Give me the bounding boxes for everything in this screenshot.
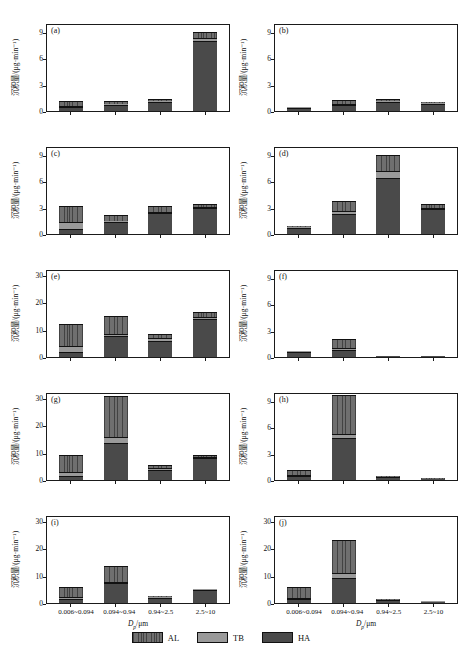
x-tick-mark [115, 235, 116, 238]
plot-frame [46, 24, 230, 112]
y-axis: 0369 [20, 24, 46, 112]
bar-segment-al [287, 587, 311, 599]
x-tick-mark [388, 481, 389, 484]
bar-stack [421, 271, 445, 357]
chart-panel-h: (h)0369 [274, 393, 458, 481]
bar-segment-ha [287, 476, 311, 480]
x-tick-slot [286, 604, 310, 607]
bar-stack [148, 271, 172, 357]
legend-item-ha: HA [262, 632, 322, 643]
x-tick-slot [103, 604, 127, 607]
x-tick-slot [331, 604, 355, 607]
x-tick-mark [298, 481, 299, 484]
x-tick-mark [343, 112, 344, 115]
bar-segment-ha [376, 178, 400, 234]
x-tick-mark [205, 112, 206, 115]
bar-segment-ha [421, 209, 445, 234]
bar-stack [332, 517, 356, 603]
bar-segment-ha [376, 356, 400, 357]
x-tick-mark [298, 358, 299, 361]
y-axis-label: 沉积量/(μg·min⁻¹) [9, 389, 20, 485]
bar-segment-ha [287, 599, 311, 603]
bar-segment-ha [59, 352, 83, 357]
y-axis: 0369 [248, 393, 274, 481]
x-tick-slot [103, 481, 127, 484]
x-tick-mark [70, 481, 71, 484]
bar-segment-ha [59, 476, 83, 480]
y-tick-mark [43, 209, 46, 210]
y-axis: 0369 [248, 24, 274, 112]
bar-stack [148, 394, 172, 480]
x-tick-slot [193, 112, 217, 115]
y-tick-mark [43, 156, 46, 157]
x-tick-mark [343, 481, 344, 484]
x-tick-mark [115, 112, 116, 115]
x-tick-mark [343, 604, 344, 607]
y-tick-mark [43, 59, 46, 60]
bar-stack [376, 25, 400, 111]
x-tick-mark [388, 112, 389, 115]
x-tick-slot [193, 604, 217, 607]
bar-stack [376, 271, 400, 357]
bar-stack [59, 394, 83, 480]
y-tick-mark [43, 454, 46, 455]
bar-segment-ha [193, 319, 217, 357]
x-tick-mark [205, 481, 206, 484]
bar-segment-ha [421, 356, 445, 357]
x-axis-label: Dp/μm [46, 619, 230, 630]
chart-panel-c: (c)0369 [46, 147, 230, 235]
x-tick-label: 2.5~10 [193, 608, 217, 616]
y-tick-label: 30 [36, 395, 44, 403]
panel-label: (h) [279, 395, 288, 404]
x-tick-mark [160, 481, 161, 484]
x-tick-slot [331, 481, 355, 484]
bar-stack [104, 517, 128, 603]
bar-segment-ha [148, 470, 172, 480]
x-tick-mark [433, 112, 434, 115]
x-tick-slot [421, 604, 445, 607]
bar-segment-al [332, 395, 356, 435]
bar-stack [59, 517, 83, 603]
y-tick-mark [43, 86, 46, 87]
x-tick-slot [103, 358, 127, 361]
x-tick-mark [70, 604, 71, 607]
y-tick-mark [271, 332, 274, 333]
bar-segment-ha [287, 228, 311, 234]
x-tick-mark [298, 604, 299, 607]
x-tick-slot [58, 481, 82, 484]
panel-label: (i) [51, 518, 59, 527]
legend-label-tb: TB [233, 633, 244, 643]
bar-segment-ha [59, 107, 83, 111]
y-axis-label: 沉积量/(μg·min⁻¹) [9, 512, 20, 608]
x-tick-mark [433, 358, 434, 361]
bar-stack [148, 517, 172, 603]
x-tick-slot [193, 358, 217, 361]
bar-segment-ha [421, 479, 445, 480]
x-tick-slot [286, 358, 310, 361]
x-tick-mark [343, 358, 344, 361]
bar-group [47, 148, 229, 234]
x-tick-mark [388, 358, 389, 361]
x-tick-label: 0.94~2.5 [376, 608, 400, 616]
x-tick-marks [274, 481, 458, 484]
y-tick-mark [271, 428, 274, 429]
bar-stack [59, 148, 83, 234]
x-tick-mark [70, 112, 71, 115]
bar-segment-ha [332, 350, 356, 357]
bar-group [47, 271, 229, 357]
y-tick-mark [271, 522, 274, 523]
x-tick-slot [58, 604, 82, 607]
bar-stack [104, 25, 128, 111]
bar-group [47, 517, 229, 603]
plot-frame [274, 393, 458, 481]
x-tick-mark [388, 604, 389, 607]
legend-swatch-ha [262, 632, 293, 643]
bar-group [275, 271, 457, 357]
y-tick-label: 30 [36, 272, 44, 280]
x-tick-mark [160, 604, 161, 607]
plot-frame [274, 24, 458, 112]
x-tick-labels: 0.006~0.0940.094~0.940.94~2.52.5~10 [274, 608, 458, 616]
x-tick-slot [148, 358, 172, 361]
bar-group [47, 25, 229, 111]
x-tick-slot [193, 481, 217, 484]
